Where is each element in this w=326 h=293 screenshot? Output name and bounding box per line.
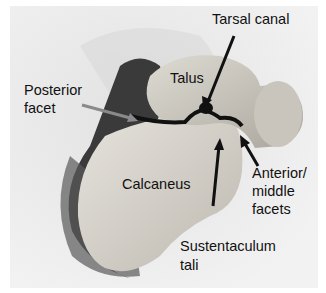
label-anterior-3: facets [252,201,291,218]
label-tarsal-canal: Tarsal canal [212,11,289,28]
label-anterior-1: Anterior/ [252,165,307,182]
label-posterior-facet-1: Posterior [24,82,82,99]
label-calcaneus: Calcaneus [122,176,191,193]
label-sustentaculum-1: Sustentaculum [180,238,276,255]
label-anterior-2: middle [252,183,295,200]
label-talus: Talus [170,70,204,87]
anatomy-photo: Tarsal canal Talus Posterior facet Calca… [10,6,318,288]
label-sustentaculum-2: tali [180,257,199,274]
label-posterior-facet-2: facet [24,100,55,117]
